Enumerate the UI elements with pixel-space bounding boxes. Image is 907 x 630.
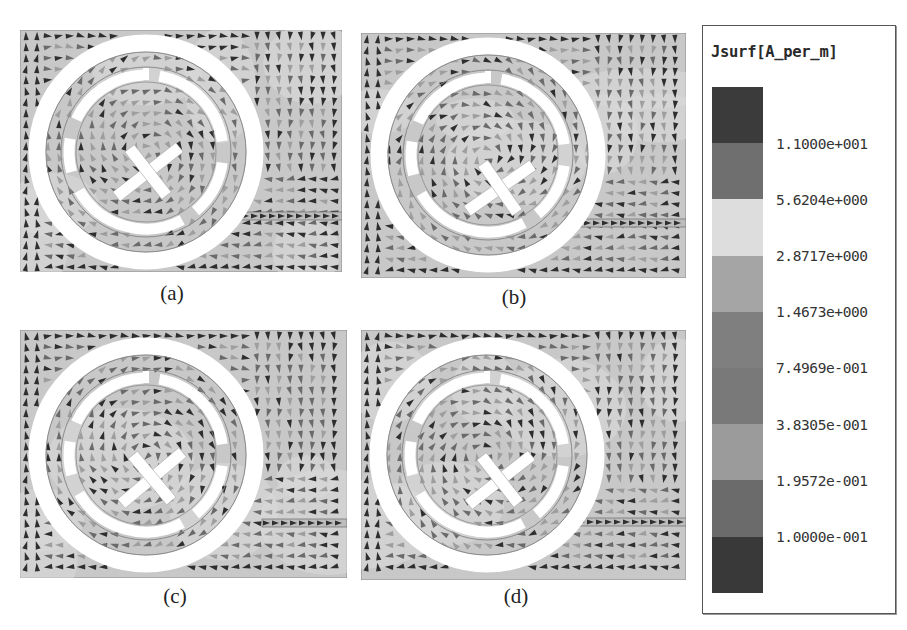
colorbar-segment (712, 312, 763, 368)
colorbar-segment (712, 424, 763, 480)
colorbar-segment (712, 537, 763, 593)
colorbar-segment (712, 87, 763, 143)
caption-b: (b) (484, 285, 544, 310)
field-panel-c (20, 330, 347, 578)
caption-d: (d) (486, 584, 546, 609)
colorbar (712, 87, 763, 593)
legend-label-1: 5.6204e+000 (776, 192, 868, 208)
colorbar-legend: Jsurf[A_per_m] 1.1000e+001 5.6204e+000 2… (702, 25, 896, 614)
colorbar-segment (712, 480, 763, 536)
legend-label-3: 1.4673e+000 (776, 304, 868, 320)
colorbar-segment (712, 143, 763, 199)
legend-label-4: 7.4969e-001 (776, 360, 868, 376)
legend-label-0: 1.1000e+001 (776, 136, 868, 152)
legend-label-5: 3.8305e-001 (776, 417, 868, 433)
field-panel-a (20, 30, 342, 272)
field-panel-d (361, 330, 686, 580)
legend-label-7: 1.0000e-001 (776, 529, 868, 545)
caption-c: (c) (145, 584, 205, 609)
field-panel-b (361, 33, 686, 278)
legend-label-2: 2.8717e+000 (776, 248, 868, 264)
colorbar-segment (712, 368, 763, 424)
caption-a: (a) (142, 281, 202, 306)
colorbar-segment (712, 256, 763, 312)
colorbar-segment (712, 199, 763, 255)
legend-label-6: 1.9572e-001 (776, 473, 868, 489)
legend-title: Jsurf[A_per_m] (711, 43, 837, 61)
